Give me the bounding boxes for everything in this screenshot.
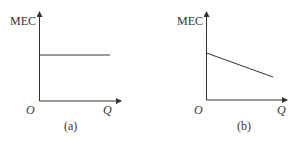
y-axis-label: MEC (177, 14, 203, 28)
panel-b: MEC O Q (b) (177, 12, 287, 133)
panel-caption: (b) (237, 119, 251, 133)
origin-label: O (26, 103, 35, 117)
panel-caption: (a) (64, 119, 77, 133)
x-axis-label: Q (103, 103, 112, 117)
panel-a: MEC O Q (a) (10, 12, 121, 133)
origin-label: O (194, 103, 203, 117)
mec-curve-downward (207, 53, 274, 77)
x-axis-label: Q (277, 103, 286, 117)
mec-diagrams: MEC O Q (a) MEC O Q (b) (0, 0, 298, 142)
y-axis-label: MEC (10, 14, 36, 28)
